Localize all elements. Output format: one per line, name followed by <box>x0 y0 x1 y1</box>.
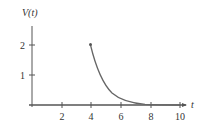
v-curve <box>91 45 181 105</box>
chart: V(t) t 2 1 2 4 6 8 10 <box>0 0 200 127</box>
x-axis-label: t <box>191 99 194 110</box>
x-tick-label-8: 8 <box>149 111 154 122</box>
x-axis-arrow-icon <box>182 103 187 107</box>
y-tick-label-1: 1 <box>20 70 25 81</box>
y-axis-label: V(t) <box>22 7 38 19</box>
x-tick-label-2: 2 <box>60 111 65 122</box>
x-tick-label-6: 6 <box>119 111 124 122</box>
start-point-marker <box>89 43 92 46</box>
x-tick-label-10: 10 <box>175 111 185 122</box>
y-tick-label-2: 2 <box>20 40 25 51</box>
x-tick-label-4: 4 <box>89 111 94 122</box>
